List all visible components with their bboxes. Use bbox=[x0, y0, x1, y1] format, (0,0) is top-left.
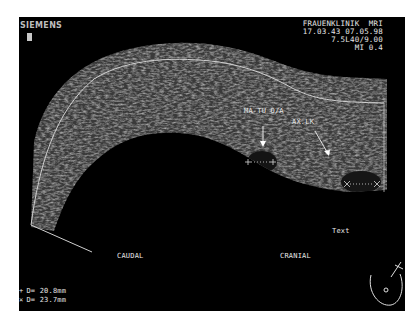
text-annotation: Text bbox=[332, 227, 350, 235]
cranial-label: CRANIAL bbox=[280, 252, 311, 260]
scan-panorama bbox=[19, 17, 405, 311]
tumor-annotation: MA-TU O/A bbox=[244, 107, 284, 115]
brand-logo: SIEMENS bbox=[20, 21, 62, 30]
measurement-value: D= 20.8mm bbox=[26, 287, 66, 296]
caudal-label: CAUDAL bbox=[117, 252, 144, 260]
breast-body-marker-icon bbox=[370, 262, 403, 305]
cursor-indicator bbox=[27, 33, 32, 41]
ultrasound-image: SIEMENS FRAUENKLINIK MRI 17.03.43 07.05.… bbox=[19, 17, 405, 311]
caudal-edge-line bbox=[31, 225, 92, 252]
exam-header: FRAUENKLINIK MRI 17.03.43 07.05.98 7.5L4… bbox=[303, 20, 383, 52]
x-caliper-icon: × bbox=[19, 296, 23, 305]
lymph-node-annotation: AX.LK bbox=[292, 118, 314, 126]
measurement-value: D= 23.7mm bbox=[26, 296, 66, 305]
measurement-row: + D= 20.8mm bbox=[19, 287, 66, 296]
plus-caliper-icon: + bbox=[19, 287, 23, 296]
measurements-panel: + D= 20.8mm × D= 23.7mm bbox=[19, 287, 66, 305]
measurement-row: × D= 23.7mm bbox=[19, 296, 66, 305]
mi-label: MI 0.4 bbox=[303, 44, 383, 52]
